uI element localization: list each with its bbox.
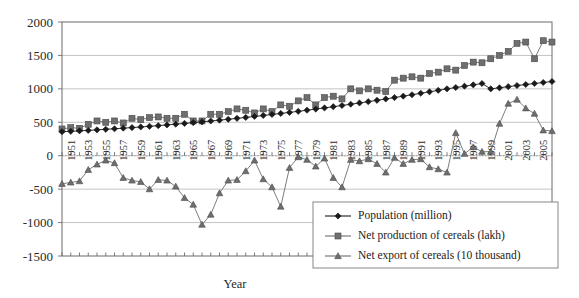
x-axis-tick-label: 1957	[118, 140, 129, 161]
data-point-marker	[286, 109, 292, 115]
data-point-marker	[497, 52, 503, 58]
data-point-marker	[164, 115, 170, 121]
data-point-marker	[260, 176, 267, 182]
data-point-marker	[365, 86, 371, 92]
data-point-marker	[190, 201, 197, 207]
data-point-marker	[85, 166, 92, 172]
x-axis-tick-label: 1965	[188, 140, 199, 161]
data-point-marker	[330, 174, 337, 180]
x-axis-title: Year	[223, 277, 247, 291]
data-point-marker	[103, 119, 109, 125]
y-axis-tick-label: 0	[47, 148, 54, 163]
data-point-marker	[330, 93, 336, 99]
x-axis-tick-label: 1973	[258, 140, 269, 161]
data-point-marker	[348, 101, 354, 107]
series-diamond	[59, 78, 555, 134]
data-point-marker	[461, 83, 467, 89]
data-point-marker	[540, 38, 546, 44]
data-point-marker	[496, 120, 503, 126]
data-point-marker	[339, 96, 345, 102]
y-axis-tick-label: -1000	[23, 215, 53, 230]
data-point-marker	[207, 211, 214, 217]
data-point-marker	[225, 116, 231, 122]
x-axis-tick-label: 1997	[468, 140, 479, 161]
x-axis-tick-label: 1959	[136, 140, 147, 161]
data-point-marker	[435, 69, 441, 75]
data-point-marker	[435, 87, 441, 93]
data-point-marker	[505, 48, 511, 54]
y-axis-tick-label: 500	[34, 115, 54, 130]
data-point-marker	[155, 176, 162, 182]
x-axis-tick-label: 2003	[521, 140, 532, 161]
data-point-marker	[383, 96, 389, 102]
data-point-marker	[540, 79, 546, 85]
data-point-marker	[348, 86, 354, 92]
legend-label: Net production of cereals (lakh)	[358, 229, 505, 242]
x-axis-tick-label: 1979	[311, 140, 322, 161]
data-point-marker	[277, 203, 284, 209]
x-axis-tick-label: 1967	[206, 140, 217, 161]
data-point-marker	[251, 157, 258, 163]
data-point-marker	[540, 127, 547, 133]
data-point-marker	[391, 94, 397, 100]
data-point-marker	[147, 115, 153, 121]
data-point-marker	[479, 80, 485, 86]
data-point-marker	[531, 80, 537, 86]
line-chart: 2000150010005000-500-1000-15001951195319…	[0, 0, 579, 298]
data-point-marker	[514, 40, 520, 46]
data-point-marker	[453, 67, 459, 73]
data-point-marker	[129, 124, 135, 130]
data-point-marker	[217, 111, 223, 117]
data-point-marker	[339, 102, 345, 108]
data-point-marker	[357, 88, 363, 94]
data-point-marker	[155, 114, 161, 120]
y-axis-tick-label: 2000	[27, 15, 53, 30]
data-point-marker	[330, 104, 336, 110]
data-point-marker	[392, 77, 398, 83]
data-point-marker	[549, 78, 555, 84]
data-point-marker	[172, 183, 179, 189]
data-point-marker	[287, 103, 293, 109]
data-point-marker	[427, 70, 433, 76]
data-point-marker	[322, 95, 328, 101]
x-axis-tick-label: 1989	[398, 140, 409, 161]
data-point-marker	[505, 100, 512, 106]
chart-container: 2000150010005000-500-1000-15001951195319…	[0, 0, 579, 298]
data-point-marker	[426, 89, 432, 95]
data-point-marker	[225, 109, 231, 115]
data-point-marker	[470, 59, 476, 65]
data-point-marker	[374, 160, 381, 166]
data-point-marker	[155, 123, 161, 129]
x-axis-tick-label: 1953	[83, 140, 94, 161]
x-axis-tick-label: 1981	[328, 140, 339, 161]
data-point-marker	[523, 81, 529, 87]
data-point-marker	[260, 112, 266, 118]
data-point-marker	[234, 115, 240, 121]
data-point-marker	[138, 124, 144, 130]
data-point-marker	[278, 110, 284, 116]
x-axis-tick-label: 2001	[503, 140, 514, 161]
data-point-marker	[260, 106, 266, 112]
data-point-marker	[496, 85, 502, 91]
data-point-marker	[216, 190, 223, 196]
data-point-marker	[391, 154, 398, 160]
x-axis-tick-label: 1993	[433, 140, 444, 161]
data-point-marker	[514, 96, 521, 102]
data-point-marker	[335, 233, 341, 239]
data-point-marker	[479, 60, 485, 66]
data-point-marker	[549, 39, 555, 45]
data-point-marker	[243, 107, 249, 113]
data-point-marker	[111, 126, 117, 132]
legend-label: Population (million)	[358, 209, 452, 222]
x-axis-tick-label: 1961	[153, 140, 164, 161]
data-point-marker	[321, 105, 327, 111]
data-point-marker	[488, 56, 494, 62]
data-point-marker	[374, 87, 380, 93]
data-point-marker	[488, 86, 494, 92]
data-point-marker	[208, 118, 214, 124]
data-point-marker	[208, 111, 214, 117]
data-point-marker	[173, 115, 179, 121]
x-axis-tick-label: 1951	[66, 140, 77, 161]
y-axis-tick-label: -500	[29, 182, 53, 197]
y-axis-tick-label: 1000	[27, 81, 53, 96]
